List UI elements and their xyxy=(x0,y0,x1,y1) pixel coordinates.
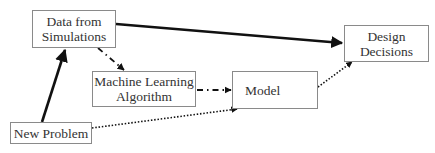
node-label-line: Algorithm xyxy=(116,89,172,104)
node-label-line: New Problem xyxy=(14,126,89,141)
node-design-decisions: Design Decisions xyxy=(344,25,429,62)
node-label-line: Design xyxy=(367,29,405,44)
edge-new-to-data xyxy=(42,50,65,122)
edge-new-to-model xyxy=(92,109,237,128)
node-machine-learning-algorithm: Machine Learning Algorithm xyxy=(92,71,196,107)
edge-data-to-ml xyxy=(98,48,124,70)
node-label-line: Data from xyxy=(46,14,101,29)
edge-data-to-design xyxy=(116,24,342,43)
edge-model-to-design xyxy=(318,62,352,87)
node-label-line: Simulations xyxy=(42,29,107,44)
node-data-from-simulations: Data from Simulations xyxy=(32,10,116,48)
node-label-line: Model xyxy=(245,83,280,98)
node-model: Model xyxy=(232,71,318,109)
node-new-problem: New Problem xyxy=(10,122,92,144)
node-label-line: Machine Learning xyxy=(94,74,193,89)
diagram-canvas: Data from Simulations Design Decisions M… xyxy=(0,0,435,153)
node-label-line: Decisions xyxy=(360,44,413,59)
